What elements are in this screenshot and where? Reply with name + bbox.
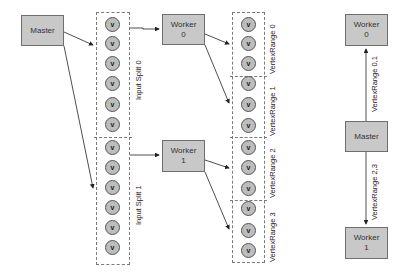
right-worker-1-label: Worker: [354, 233, 380, 243]
worker-0-node: Worker 0: [162, 14, 205, 45]
worker-0-id: 0: [181, 30, 185, 40]
vertex-range-1-label: VertexRange 1: [268, 86, 277, 136]
right-worker-1-node: Worker 1: [345, 227, 388, 259]
vertex-node: v: [241, 223, 256, 238]
vertex-node: v: [241, 36, 256, 51]
vertex-node: v: [105, 97, 120, 112]
right-worker-0-label: Worker: [354, 20, 380, 30]
vertex-node: v: [241, 76, 256, 91]
worker-1-label: Worker: [171, 146, 197, 156]
master-label: Master: [30, 26, 54, 36]
vertex-node: v: [241, 56, 256, 71]
right-master-label: Master: [354, 132, 378, 142]
vertex-node: v: [105, 220, 120, 235]
vertex-node: v: [105, 56, 120, 71]
input-split-0-label: Input Split 0: [134, 60, 143, 100]
vertex-node: v: [105, 160, 120, 175]
vertex-range-2-label: VertexRange 2: [268, 148, 277, 198]
input-split-separator: [94, 137, 132, 138]
vertex-node: v: [241, 160, 256, 175]
edge-label-top: VertexRange 0,1: [370, 56, 379, 112]
vertex-node: v: [105, 117, 120, 132]
right-worker-0-node: Worker 0: [345, 14, 388, 46]
vertex-node: v: [241, 201, 256, 216]
vertex-node: v: [105, 200, 120, 215]
vertex-node: v: [241, 97, 256, 112]
worker-0-label: Worker: [171, 20, 197, 30]
vertex-range-3-label: VertexRange 3: [268, 212, 277, 262]
vertex-node: v: [241, 118, 256, 133]
vertex-node: v: [241, 140, 256, 155]
vertex-node: v: [105, 140, 120, 155]
vertex-node: v: [241, 243, 256, 258]
edge-label-bottom: VertexRange 2,3: [370, 164, 379, 220]
vertex-node: v: [105, 240, 120, 255]
worker-1-id: 1: [181, 156, 185, 166]
vertex-node: v: [105, 17, 120, 32]
vertex-node: v: [241, 17, 256, 32]
vertex-range-0-label: VertexRange 0: [268, 24, 277, 74]
right-worker-1-id: 1: [364, 243, 368, 253]
worker-1-node: Worker 1: [162, 140, 205, 172]
right-worker-0-id: 0: [364, 30, 368, 40]
right-master-node: Master: [345, 121, 388, 152]
vertex-node: v: [241, 181, 256, 196]
master-node: Master: [21, 15, 64, 46]
input-split-1-label: Input Split 1: [134, 185, 143, 225]
vertex-node: v: [105, 76, 120, 91]
vertex-node: v: [105, 36, 120, 51]
vertex-range-separator: [230, 137, 267, 138]
vertex-node: v: [105, 180, 120, 195]
